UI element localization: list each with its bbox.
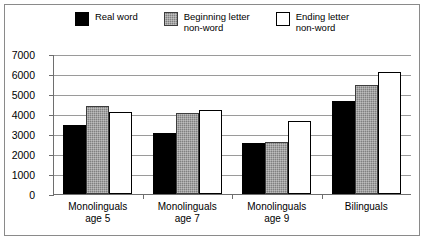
y-axis-tick-mark xyxy=(49,155,54,156)
legend-label-real-word: Real word xyxy=(95,11,138,22)
x-axis-category-label: Monolinguals age 7 xyxy=(143,201,233,225)
chart-legend: Real word Beginning letter non-word Endi… xyxy=(5,11,419,43)
y-axis-tick-label: 3000 xyxy=(0,129,35,141)
y-axis-tick-mark xyxy=(49,55,54,56)
y-axis-tick-mark xyxy=(49,75,54,76)
plot-area xyxy=(53,55,411,195)
bar[interactable] xyxy=(378,72,401,194)
legend-entry-beginning-letter-non-word: Beginning letter non-word xyxy=(164,11,250,33)
x-axis-category-label: Monolinguals age 9 xyxy=(232,201,322,225)
legend-label-ending-letter-non-word: Ending letter non-word xyxy=(296,11,349,33)
bar-group xyxy=(322,54,412,194)
x-axis-tick-mark xyxy=(232,194,233,199)
y-axis-tick-label: 2000 xyxy=(0,149,35,161)
y-axis-tick-label: 5000 xyxy=(0,89,35,101)
y-axis-tick-label: 6000 xyxy=(0,69,35,81)
legend-entry-ending-letter-non-word: Ending letter non-word xyxy=(276,11,349,33)
bar[interactable] xyxy=(86,106,109,194)
legend-swatch-gray-icon xyxy=(164,12,178,26)
y-axis-tick-label: 4000 xyxy=(0,109,35,121)
y-axis-tick-mark xyxy=(49,135,54,136)
legend-entry-real-word: Real word xyxy=(75,11,138,26)
bar[interactable] xyxy=(176,113,199,194)
bar[interactable] xyxy=(199,110,222,194)
y-axis-tick-label: 1000 xyxy=(0,169,35,181)
bar[interactable] xyxy=(63,125,86,194)
x-axis-category-label: Monolinguals age 5 xyxy=(53,201,143,225)
bar[interactable] xyxy=(265,142,288,194)
legend-swatch-white-icon xyxy=(276,12,290,26)
x-axis-tick-mark xyxy=(322,194,323,199)
y-axis-tick-mark xyxy=(49,115,54,116)
y-axis-tick-mark xyxy=(49,95,54,96)
chart-frame: Real word Beginning letter non-word Endi… xyxy=(4,4,420,236)
y-axis-tick-label: 0 xyxy=(0,189,35,201)
bar-group xyxy=(53,54,143,194)
y-axis-tick-label: 7000 xyxy=(0,49,35,61)
legend-swatch-black-icon xyxy=(75,12,89,26)
bar-group xyxy=(143,54,233,194)
x-axis-category-label: Bilinguals xyxy=(322,201,412,213)
bar[interactable] xyxy=(153,133,176,194)
bar[interactable] xyxy=(355,85,378,194)
bar[interactable] xyxy=(242,143,265,194)
y-axis-tick-mark xyxy=(49,175,54,176)
bar[interactable] xyxy=(332,101,355,194)
legend-label-beginning-letter-non-word: Beginning letter non-word xyxy=(184,11,250,33)
y-axis-tick-mark xyxy=(49,195,54,196)
bar[interactable] xyxy=(288,121,311,194)
bar[interactable] xyxy=(109,112,132,194)
bar-group xyxy=(232,54,322,194)
x-axis-tick-mark xyxy=(143,194,144,199)
